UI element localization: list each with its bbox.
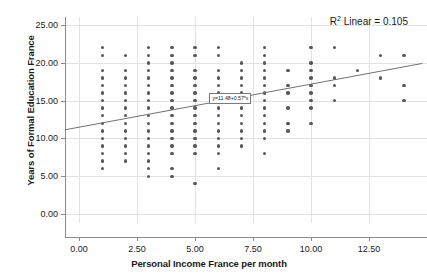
x-tick-label: 2.50 — [107, 244, 167, 254]
y-tick-label: 15.00 — [20, 96, 58, 106]
y-tick-label: 20.00 — [20, 58, 58, 68]
x-axis-title: Personal Income France per month — [0, 258, 418, 269]
r-squared-annotation: R2 Linear = 0.105 — [330, 15, 408, 27]
x-tick-label: 10.00 — [281, 244, 341, 254]
y-tick-label: 0.00 — [20, 209, 58, 219]
x-tick-label: 12.50 — [339, 244, 399, 254]
fit-equation-annotation: y=11.48+0.57*x — [209, 93, 251, 104]
y-tick-label: 25.00 — [20, 20, 58, 30]
y-axis-title: Years of Formal Education France — [25, 1, 36, 221]
x-tick-label: 5.00 — [165, 244, 225, 254]
x-tick-label: 0.00 — [49, 244, 109, 254]
x-tick-label: 7.50 — [223, 244, 283, 254]
y-tick-label: 5.00 — [20, 171, 58, 181]
y-tick-label: 10.00 — [20, 133, 58, 143]
